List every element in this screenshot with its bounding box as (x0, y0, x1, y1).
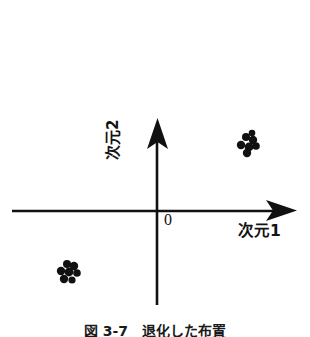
data-point (63, 260, 71, 268)
data-cluster-upper-right (237, 130, 260, 158)
data-point (249, 130, 256, 137)
data-point (73, 269, 81, 277)
plot-area: 0 次元1 次元2 (0, 0, 310, 312)
x-axis-label: 次元1 (238, 224, 281, 240)
x-axis (12, 200, 297, 221)
data-point (242, 133, 250, 141)
scatter-plot-svg (0, 0, 310, 312)
figure-caption-text: 図 3-7 退化した布置 (84, 324, 226, 337)
data-point (65, 268, 74, 277)
origin-label: 0 (164, 212, 172, 228)
data-point (252, 142, 260, 150)
data-point (237, 141, 245, 149)
data-point (68, 276, 75, 283)
data-point (57, 267, 65, 275)
figure-container: 0 次元1 次元2 図 3-7 退化した布置 (0, 0, 310, 337)
y-axis-label: 次元2 (106, 120, 121, 160)
figure-caption: 図 3-7 退化した布置 (0, 322, 310, 337)
data-point (60, 275, 68, 283)
data-point (243, 149, 251, 157)
data-cluster-lower-left (57, 260, 81, 284)
